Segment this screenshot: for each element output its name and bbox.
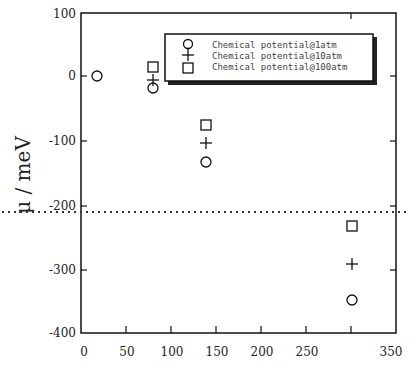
series-10atm [147, 74, 358, 270]
svg-text:Chemical potential@10atm: Chemical potential@10atm [212, 51, 342, 61]
x-tick-labels: 0 50 100 150 200 250 350 [80, 345, 402, 359]
y-tick-labels: 100 0 -100 -200 -300 -400 [49, 7, 76, 340]
chart: 100 0 -100 -200 -300 -400 0 50 100 150 2… [0, 0, 412, 366]
svg-text:-200: -200 [49, 199, 76, 213]
svg-text:50: 50 [119, 345, 134, 359]
svg-text:-300: -300 [49, 263, 76, 277]
svg-text:350: 350 [380, 345, 403, 359]
svg-text:-400: -400 [49, 326, 76, 340]
svg-text:250: 250 [296, 345, 319, 359]
y-axis-label: μ / meV [11, 136, 35, 214]
svg-text:100: 100 [53, 7, 76, 21]
svg-text:Chemical potential@1atm: Chemical potential@1atm [212, 40, 337, 50]
svg-text:200: 200 [251, 345, 274, 359]
legend: Chemical potential@1atm Chemical potenti… [165, 34, 377, 85]
svg-text:Chemical potential@100atm: Chemical potential@100atm [212, 62, 347, 72]
svg-text:0: 0 [68, 69, 76, 83]
y-ticks [81, 76, 396, 270]
svg-text:100: 100 [161, 345, 184, 359]
svg-text:-100: -100 [49, 134, 76, 148]
svg-text:0: 0 [80, 345, 88, 359]
series-100atm [148, 62, 357, 231]
series-1atm [92, 71, 357, 305]
svg-text:150: 150 [206, 345, 229, 359]
